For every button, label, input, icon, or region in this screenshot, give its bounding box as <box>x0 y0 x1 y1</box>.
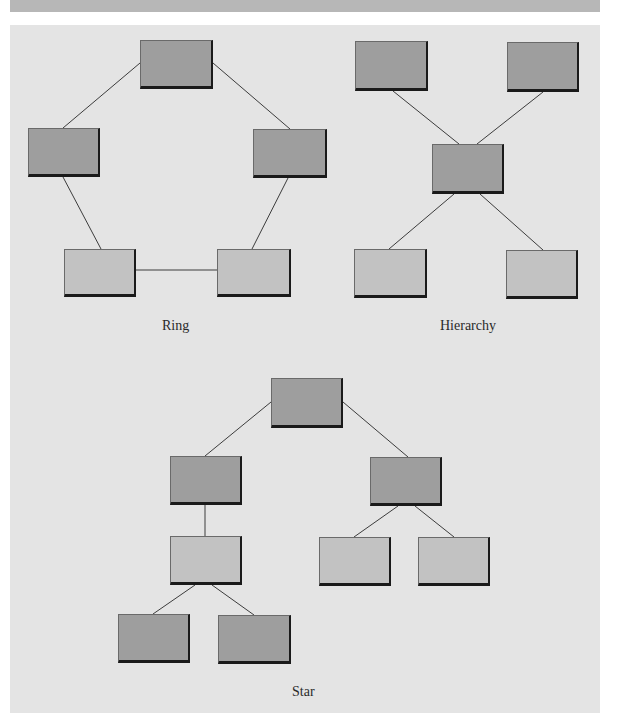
star-node-right-2a <box>319 537 391 586</box>
hierarchy-node-bottom-right <box>506 250 578 299</box>
ring-node-bottom-right <box>217 249 291 297</box>
hierarchy-node-center <box>432 144 504 194</box>
star-node-right-1 <box>370 457 442 506</box>
top-decorative-band <box>10 0 600 12</box>
star-node-left-2 <box>170 536 242 585</box>
ring-node-bottom-left <box>64 249 136 297</box>
star-node-root <box>271 378 343 428</box>
hierarchy-label: Hierarchy <box>440 318 496 334</box>
star-node-right-2b <box>418 537 490 586</box>
ring-node-top <box>140 40 213 89</box>
ring-node-right <box>253 129 327 178</box>
star-node-left-1 <box>170 456 242 505</box>
star-node-left-3b <box>218 615 291 664</box>
hierarchy-node-bottom-left <box>354 249 427 298</box>
star-node-left-3a <box>118 614 190 663</box>
ring-node-left <box>28 128 100 177</box>
ring-label: Ring <box>162 318 189 334</box>
hierarchy-node-top-left <box>355 41 428 91</box>
star-label: Star <box>292 684 315 700</box>
hierarchy-node-top-right <box>507 42 579 92</box>
